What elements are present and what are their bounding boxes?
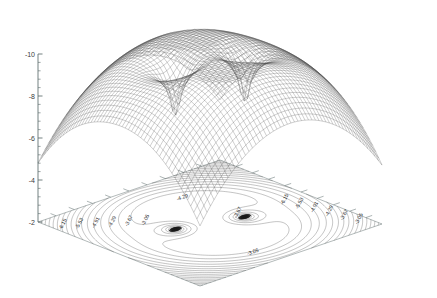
contour-label: -4.91 xyxy=(309,200,320,213)
x-axis-tick xyxy=(69,207,75,209)
mesh-line-u xyxy=(191,102,373,206)
x-axis-tick xyxy=(160,176,166,178)
z-axis-tick-label: -8 xyxy=(29,93,35,100)
x-axis-tick xyxy=(123,189,129,191)
z-axis-tick-label: -10 xyxy=(25,51,35,58)
plot-canvas: -6.15-5.53-4.91-4.29-3.67-3.05-3.05-3.67… xyxy=(0,0,437,298)
y-axis-tick xyxy=(301,190,307,192)
mesh-line-v xyxy=(189,35,351,134)
base-plane-outline xyxy=(38,160,382,286)
mesh-line-v xyxy=(119,41,281,127)
contour-line xyxy=(131,191,289,256)
z-axis-tick-label: -2 xyxy=(29,219,35,226)
contour-label: -4.29 xyxy=(107,215,118,228)
y-axis-tick xyxy=(317,196,323,198)
mesh-line-v xyxy=(94,58,256,145)
contour-line xyxy=(76,173,344,272)
contour-label: -4.29 xyxy=(176,192,189,202)
y-axis-tick xyxy=(366,215,372,217)
mesh-surface xyxy=(38,29,382,226)
mesh-line-u xyxy=(197,114,379,219)
z-axis: -2-4-6-8-10 xyxy=(25,51,43,226)
contour-label: -4.91 xyxy=(90,216,101,229)
contour-base-plane: -6.15-5.53-4.91-4.29-3.67-3.05-3.05-3.67… xyxy=(38,160,382,286)
x-axis-tick xyxy=(51,214,57,216)
z-axis-tick-label: -6 xyxy=(29,135,35,142)
contour-label: -3.05 xyxy=(140,213,151,226)
x-axis-tick xyxy=(142,183,148,185)
mesh-line-u xyxy=(131,53,313,132)
mesh-line-u xyxy=(200,120,382,226)
y-axis-tick xyxy=(333,203,339,205)
contour-line xyxy=(57,167,362,279)
contour-label: -4.29 xyxy=(323,204,334,217)
contour-label: -3.67 xyxy=(123,214,134,227)
contour-labels: -6.15-5.53-4.91-4.29-3.67-3.05-3.05-3.67… xyxy=(57,192,364,256)
mesh-line-v xyxy=(206,45,368,148)
x-axis-tick xyxy=(87,201,93,203)
mesh-line-u xyxy=(169,73,351,168)
contour-label: -5.53 xyxy=(74,216,85,229)
y-axis-tick xyxy=(285,183,291,185)
contour-line xyxy=(62,168,359,277)
contour-label: -5.53 xyxy=(294,196,305,209)
contour-line xyxy=(82,175,339,270)
surface-plot-figure: -6.15-5.53-4.91-4.29-3.67-3.05-3.05-3.67… xyxy=(0,0,437,298)
z-axis-tick-label: -4 xyxy=(29,177,35,184)
mesh-line-v xyxy=(42,116,204,219)
x-axis-tick xyxy=(105,195,111,197)
y-axis-tick xyxy=(350,209,356,211)
y-axis-tick xyxy=(252,171,258,173)
y-axis-tick xyxy=(269,177,275,179)
